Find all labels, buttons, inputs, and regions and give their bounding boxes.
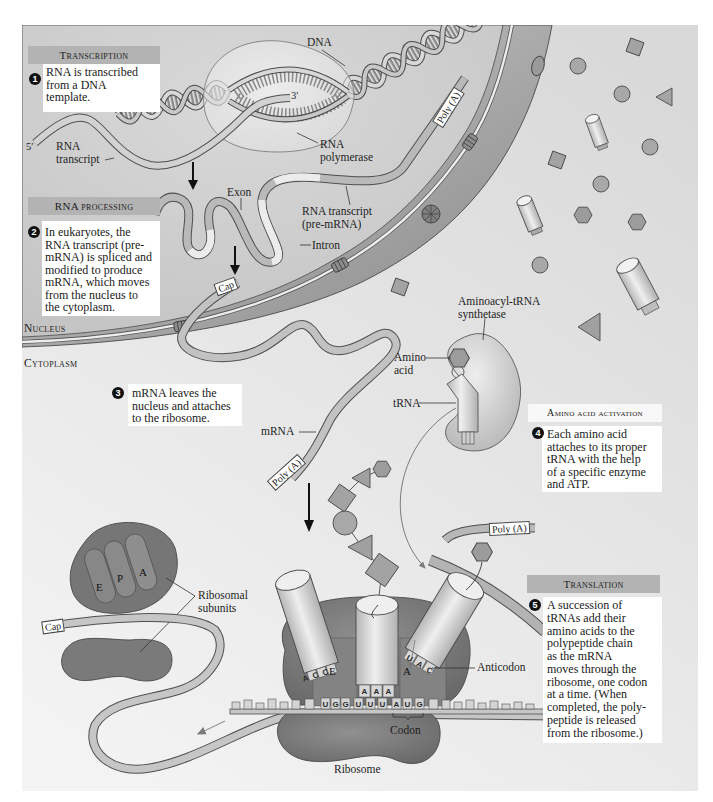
aminoacyl-trna-synthetase-label: Aminoacyl-tRNA synthetase: [458, 295, 540, 320]
intron-label: Intron: [312, 239, 340, 252]
step-3-text: mRNA leaves the nucleus and attaches to …: [132, 387, 231, 425]
rna-polymerase-label: RNA polymerase: [320, 138, 373, 163]
p-site-anticodon-base: A: [372, 687, 381, 696]
mrna-label: mRNA: [261, 425, 294, 438]
ribosome-label: Ribosome: [334, 763, 381, 776]
translation-header: Translation: [527, 575, 660, 593]
step-4-text: Each amino acid attaches to its proper t…: [547, 428, 647, 491]
mrna-base: G: [415, 700, 424, 709]
ribosome-a-site-label: A: [403, 665, 411, 677]
codon-label: Codon: [390, 724, 421, 737]
step-2-badge: 2: [28, 226, 40, 238]
step-4-badge: 4: [532, 427, 544, 439]
poly-a-tail-label-translation: Poly (A): [489, 521, 530, 536]
mrna-base: G: [331, 700, 340, 709]
rna-processing-header: RNA processing: [28, 197, 160, 215]
amino-acid-label: Amino acid: [394, 351, 426, 376]
step-5-text: A succession of tRNAs add their amino ac…: [547, 599, 647, 739]
mrna-base: A: [392, 700, 401, 709]
three-prime-label: 3′: [291, 90, 299, 103]
dna-label: DNA: [307, 36, 332, 49]
amino-acid-activation-header: Amino acid activation: [528, 404, 662, 422]
rna-transcript-label: RNA transcript: [56, 140, 99, 165]
step-5-badge: 5: [529, 599, 541, 611]
p-site-anticodon-base: A: [384, 687, 393, 696]
pre-mrna-label: RNA transcript (pre-mRNA): [302, 205, 372, 230]
subunit-e-site-label: E: [96, 581, 103, 593]
five-prime-label: 5′: [26, 141, 34, 154]
step-1-text: RNA is transcribed from a DNA template.: [46, 66, 138, 104]
step-1-badge: 1: [29, 73, 41, 85]
mrna-base: U: [354, 700, 363, 709]
mrna-base: U: [378, 700, 387, 709]
subunit-a-site-label: A: [139, 566, 147, 578]
cytoplasm-label: Cytoplasm: [24, 357, 77, 370]
ribosomal-subunits-label: Ribosomal subunits: [198, 589, 248, 614]
mrna-base: U: [366, 700, 375, 709]
protein-synthesis-figure: Transcription 1 RNA is transcribed from …: [0, 0, 713, 802]
nucleus-label: Nucleus: [24, 322, 66, 335]
exon-label: Exon: [227, 186, 251, 199]
step-2-text: In eukaryotes, the RNA transcript (pre- …: [45, 226, 152, 314]
mrna-base: U: [403, 700, 412, 709]
subunit-p-site-label: P: [117, 572, 123, 584]
mrna-base: U: [321, 700, 330, 709]
p-site-anticodon-base: A: [360, 687, 369, 696]
anticodon-label: Anticodon: [477, 661, 526, 674]
mrna-base: G: [341, 700, 350, 709]
transcription-header: Transcription: [28, 46, 160, 64]
trna-label: tRNA: [393, 397, 420, 410]
step-3-badge: 3: [112, 387, 124, 399]
